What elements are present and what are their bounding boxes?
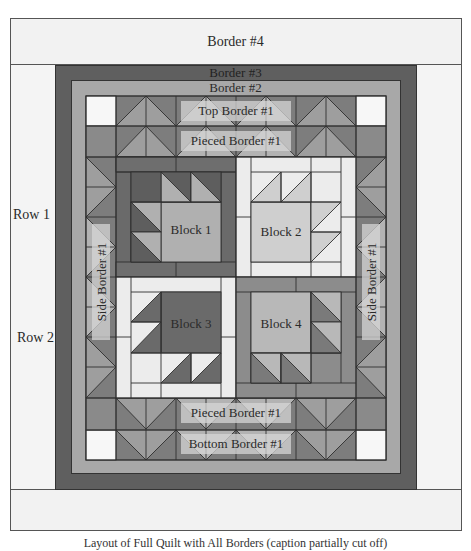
top-border-1-label: Top Border #1 xyxy=(181,104,291,117)
corner-square-bl xyxy=(86,430,116,460)
block-2-shape xyxy=(236,157,356,277)
row-2-label: Row 2 xyxy=(17,331,54,345)
pieced-border-1-top-label: Pieced Border #1 xyxy=(176,134,296,147)
border-3-label: Border #3 xyxy=(0,66,471,79)
block-3-shape xyxy=(116,277,236,398)
row-1-label: Row 1 xyxy=(13,208,50,222)
block-4-shape xyxy=(236,277,356,398)
corner-square-tl xyxy=(86,96,116,126)
block-3-label: Block 3 xyxy=(161,317,221,330)
border-4-label: Border #4 xyxy=(0,35,471,49)
block-4-label: Block 4 xyxy=(251,317,311,330)
block-1-label: Block 1 xyxy=(161,223,221,236)
side-border-1-right-label: Side Border #1 xyxy=(365,243,378,322)
block-1-shape xyxy=(116,157,236,277)
figure-caption: Layout of Full Quilt with All Borders (c… xyxy=(0,536,471,551)
corner-square-br xyxy=(356,430,386,460)
corner-square-tr xyxy=(356,96,386,126)
bottom-border-1-label: Bottom Border #1 xyxy=(171,437,301,450)
pieced-border-1-bottom-label: Pieced Border #1 xyxy=(176,406,296,419)
side-border-1-left-label: Side Border #1 xyxy=(95,243,108,322)
border-2-label: Border #2 xyxy=(0,81,471,94)
block-2-label: Block 2 xyxy=(251,225,311,238)
